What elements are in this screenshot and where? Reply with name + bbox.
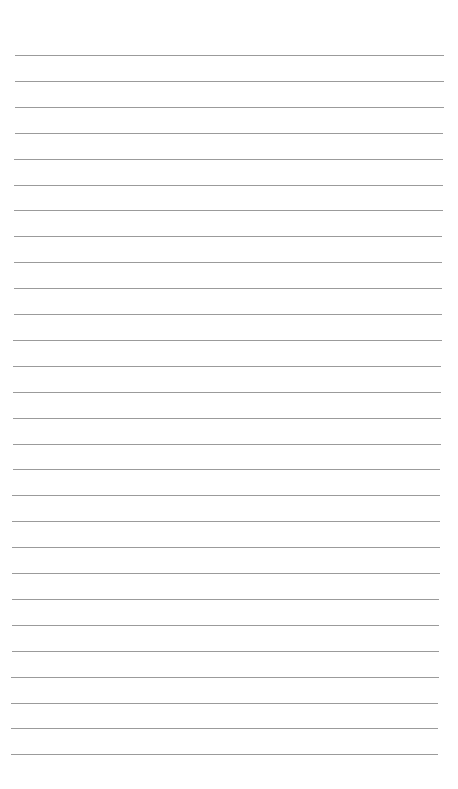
ruled-line	[14, 288, 442, 289]
ruled-line	[12, 651, 439, 652]
ruled-line	[15, 107, 444, 108]
ruled-line	[15, 133, 444, 134]
ruled-line	[14, 236, 442, 237]
ruled-line	[11, 703, 438, 704]
ruled-line	[12, 547, 440, 548]
ruled-line	[11, 677, 438, 678]
ruled-line	[13, 469, 441, 470]
ruled-line	[14, 314, 442, 315]
ruled-line	[12, 573, 440, 574]
ruled-line	[12, 521, 440, 522]
ruled-line	[13, 418, 441, 419]
ruled-line	[12, 599, 439, 600]
ruled-line	[15, 81, 444, 82]
ruled-line	[14, 159, 443, 160]
ruled-line	[11, 728, 438, 729]
ruled-line	[14, 262, 442, 263]
lined-paper-page	[0, 0, 458, 789]
ruled-line	[13, 444, 441, 445]
ruled-line	[13, 366, 441, 367]
ruled-line	[15, 55, 444, 56]
ruled-line	[11, 754, 438, 755]
ruled-line	[12, 495, 440, 496]
ruled-line	[13, 340, 441, 341]
ruled-line	[13, 392, 441, 393]
ruled-line	[14, 210, 443, 211]
ruled-line	[12, 625, 439, 626]
ruled-line	[14, 185, 443, 186]
